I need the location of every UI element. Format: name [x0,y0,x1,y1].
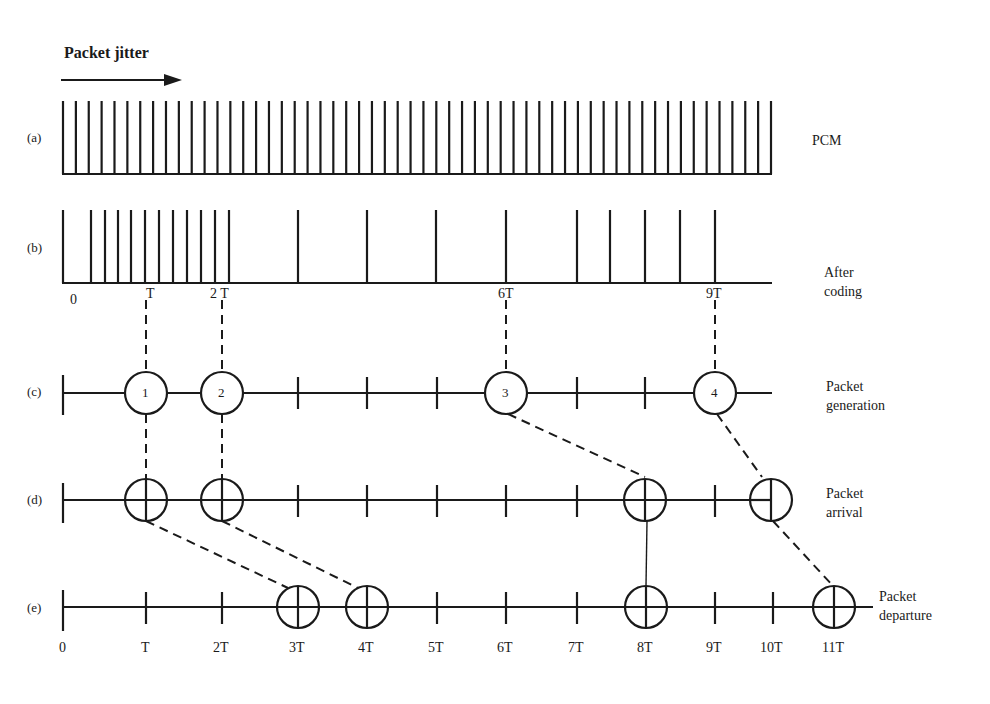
packet-jitter-diagram [0,0,990,704]
coded-pulse-train [62,210,772,283]
b-tick-T: T [146,286,155,302]
row-name-packet-gen: Packet [826,378,863,396]
row-name-pcm: PCM [812,132,842,150]
axis-tick-5T: 5T [428,640,444,656]
departure-timeline [63,586,873,631]
row-name-arrival: arrival [826,504,863,522]
axis-tick-4T: 4T [358,640,374,656]
arrival-timeline [63,479,792,523]
pcm-pulse-train [62,101,772,174]
row-label-d: (d) [27,492,42,508]
b-tick-6T: 6T [498,286,514,302]
axis-tick-11T: 11T [822,640,844,656]
jitter-arrow-icon [61,74,182,86]
axis-tick-8T: 8T [637,640,653,656]
axis-tick-T: T [141,640,150,656]
row-name-generation: generation [826,397,885,415]
arrival-connectors [146,414,762,480]
row-label-e: (e) [27,600,41,616]
b-tick-2T: 2 T [210,286,229,302]
packet-1-label: 1 [142,385,149,401]
departure-connectors [146,521,834,588]
b-tick-9T: 9T [706,286,722,302]
axis-tick-3T: 3T [289,640,305,656]
generation-connectors [146,300,715,372]
buffer-connector [646,521,647,586]
axis-tick-7T: 7T [568,640,584,656]
axis-tick-10T: 10T [760,640,783,656]
axis-tick-9T: 9T [706,640,722,656]
row-name-packet-dep: Packet [879,588,916,606]
row-name-departure: departure [879,607,932,625]
generation-timeline [63,372,772,415]
packet-4-label: 4 [711,385,718,401]
axis-tick-6T: 6T [497,640,513,656]
b-tick-0: 0 [70,292,77,308]
row-label-c: (c) [27,384,41,400]
row-name-coding: coding [824,283,862,301]
row-name-after: After [824,264,854,282]
row-label-b: (b) [27,240,42,256]
axis-tick-2T: 2T [213,640,229,656]
packet-3-label: 3 [502,385,509,401]
diagram-title: Packet jitter [64,44,149,62]
packet-2-label: 2 [218,385,225,401]
row-label-a: (a) [27,130,41,146]
axis-tick-0: 0 [59,640,66,656]
row-name-packet-arr: Packet [826,485,863,503]
